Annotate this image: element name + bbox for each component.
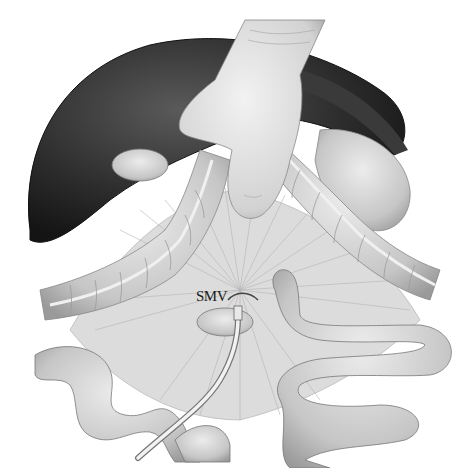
smv-label: SMV <box>196 288 227 305</box>
gallbladder <box>112 149 168 181</box>
anatomy-illustration <box>0 0 475 468</box>
